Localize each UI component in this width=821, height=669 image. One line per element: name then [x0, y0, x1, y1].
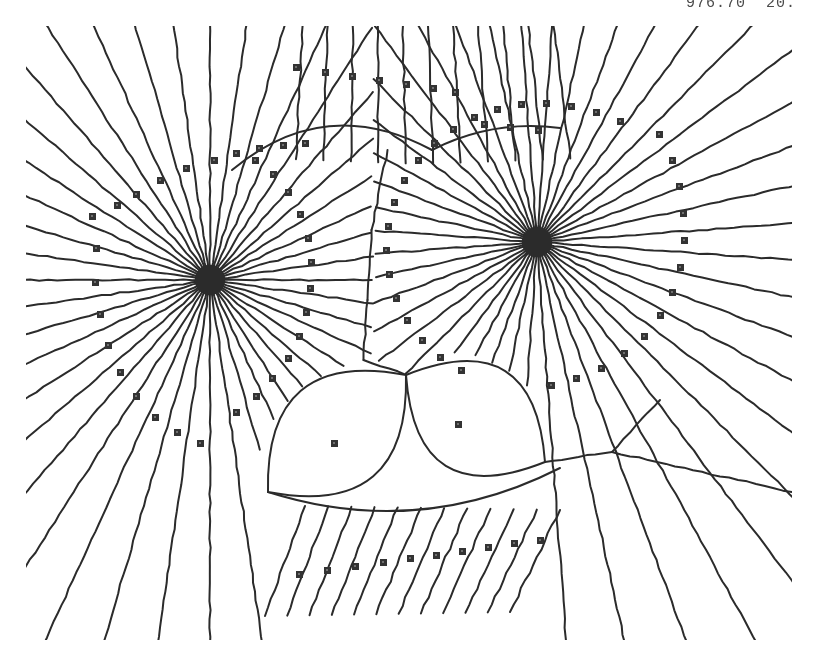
- voronoi-figure: 976.70 20.: [0, 0, 821, 669]
- scan-caption-fragment: 976.70 20.: [686, 0, 796, 22]
- voronoi-diagram-canvas: [0, 0, 821, 669]
